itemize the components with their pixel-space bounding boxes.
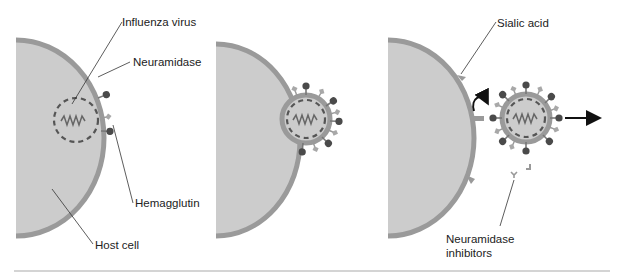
- label-neuramidase-inhibitors-line1: Neuramidase: [446, 233, 514, 245]
- label-neuramidase-inhibitors-line2: inhibitors: [446, 247, 492, 259]
- label-sialic-acid: Sialic acid: [497, 17, 549, 29]
- label-host-cell: Host cell: [95, 239, 139, 251]
- neuraminidase-inhibitor-icon: [511, 172, 517, 178]
- neuraminidase-inhibitor-icon: [526, 164, 530, 169]
- host-cell-2: [216, 44, 300, 236]
- panel-2: [216, 44, 343, 236]
- panel-3: Sialic acid Neuramidase inhibitors: [388, 17, 598, 259]
- label-influenza-virus: Influenza virus: [122, 16, 196, 28]
- host-cell-3: [388, 40, 474, 236]
- influenza-release-diagram: Influenza virus Neuramidase Hemagglutin …: [0, 0, 618, 275]
- label-neuramidase: Neuramidase: [133, 56, 201, 68]
- virus-capsid-1: [54, 98, 98, 142]
- host-cell-1: [16, 40, 104, 236]
- panel-1: Influenza virus Neuramidase Hemagglutin …: [16, 16, 201, 251]
- sialic-acid-receptor-icon: [472, 116, 484, 121]
- curved-arrow-icon: [473, 97, 487, 111]
- label-hemagglutin: Hemagglutin: [135, 197, 200, 209]
